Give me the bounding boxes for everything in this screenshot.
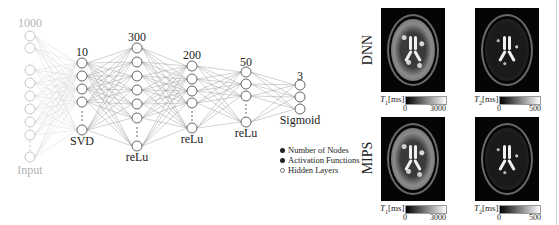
input-layer-node-count: 1000: [18, 16, 42, 31]
svd-layer-node-count: 10: [76, 45, 88, 60]
mips-t2-map-image: [475, 117, 539, 201]
legend-item-node-count: Number of Nodes: [280, 145, 360, 155]
relu1-layer-node-count: 300: [128, 30, 146, 45]
relu2-layer-node-count: 200: [183, 48, 201, 63]
network-node: [77, 71, 87, 81]
legend-item-hidden-layers: Hidden Layers: [280, 165, 360, 175]
network-node: [25, 130, 35, 140]
network-node: [132, 57, 142, 67]
relu3-layer-node-count: 50: [240, 55, 252, 70]
dnn-t2-map-image: [475, 8, 539, 92]
mips-t1-map-image: [381, 117, 445, 201]
relu3-activation-label: reLu: [235, 126, 258, 141]
network-node: [295, 92, 305, 102]
hollow-dot-icon: [280, 168, 285, 173]
network-node: [132, 85, 142, 95]
network-node: [187, 98, 197, 108]
dnn-t1-map-image: [381, 8, 445, 92]
network-node: [25, 104, 35, 114]
network-node: [25, 43, 35, 53]
network-node: [187, 74, 197, 84]
network-node: [25, 78, 35, 88]
relu1-activation-label: reLu: [126, 150, 149, 165]
input-layer-label: Input: [17, 163, 42, 178]
legend-item-activation: Activation Functions: [280, 155, 360, 165]
network-node: [25, 31, 35, 41]
network-node: [132, 99, 142, 109]
filled-dot-icon: [280, 158, 285, 163]
panel-border: [556, 0, 557, 225]
network-node: [25, 117, 35, 127]
network-node: [132, 113, 142, 123]
row-label-mips: MIPS: [360, 142, 376, 175]
sigmoid-activation-label: Sigmoid: [280, 113, 321, 128]
output-layer-node-count: 3: [297, 69, 303, 84]
network-node: [25, 91, 35, 101]
row-label-dnn: DNN: [360, 35, 376, 65]
relu2-activation-label: reLu: [181, 132, 204, 147]
network-node: [187, 86, 197, 96]
network-node: [77, 84, 87, 94]
network-node: [132, 71, 142, 81]
network-node: [25, 152, 35, 162]
network-node: [241, 91, 251, 101]
network-node: [25, 65, 35, 75]
legend: Number of Nodes Activation Functions Hid…: [280, 145, 360, 175]
network-node: [241, 79, 251, 89]
network-node: [77, 97, 87, 107]
filled-dot-icon: [280, 148, 285, 153]
svd-activation-label: SVD: [70, 134, 94, 149]
